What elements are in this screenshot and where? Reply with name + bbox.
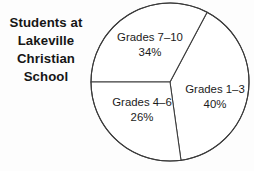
slice-percent-grades-7-10: 34% [104,45,196,60]
slice-name-grades-4-6: Grades 4–6 [98,95,186,110]
slice-label-grades-1-3: Grades 1–3 40% [176,82,254,111]
pie-chart-figure: Students at Lakeville Christian School G… [0,0,254,171]
slice-percent-grades-1-3: 40% [176,97,254,112]
slice-name-grades-7-10: Grades 7–10 [104,30,196,45]
slice-percent-grades-4-6: 26% [98,110,186,125]
slice-name-grades-1-3: Grades 1–3 [176,82,254,97]
slice-label-grades-7-10: Grades 7–10 34% [104,30,196,59]
slice-label-grades-4-6: Grades 4–6 26% [98,95,186,124]
